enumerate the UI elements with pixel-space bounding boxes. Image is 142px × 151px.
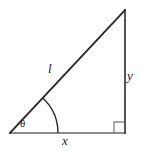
angle-arc: [43, 98, 58, 133]
adjacent-side-label: x: [62, 134, 68, 147]
hypotenuse-label: l: [48, 62, 52, 75]
opposite-side-label: y: [127, 69, 133, 82]
right-triangle-figure: l y x θ: [0, 0, 142, 151]
right-angle-marker-icon: [114, 122, 124, 133]
triangle-hypotenuse-line: [10, 10, 125, 133]
angle-theta-label: θ: [20, 118, 25, 129]
